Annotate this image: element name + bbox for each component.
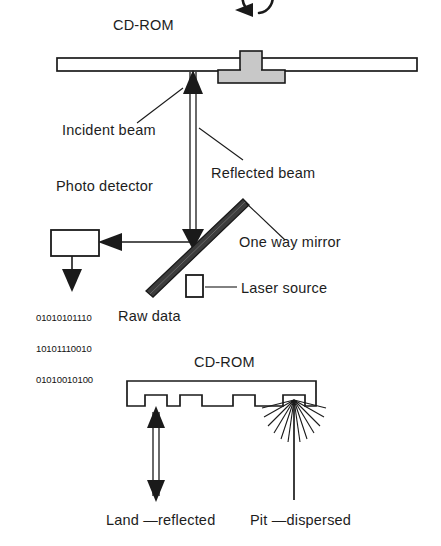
land-reflected-beam bbox=[147, 406, 165, 502]
cdrom-disc-bottom bbox=[127, 381, 316, 406]
pit-dispersed-label: Pit —dispersed bbox=[250, 512, 351, 528]
cdrom-title-top: CD-ROM bbox=[113, 17, 174, 33]
laser-source-label: Laser source bbox=[241, 280, 327, 296]
incident-beam-label: Incident beam bbox=[62, 122, 156, 138]
land-reflected-label: Land —reflected bbox=[106, 512, 215, 528]
laser-source-box bbox=[186, 275, 203, 297]
detector-beam-arrowhead bbox=[98, 233, 122, 251]
reflected-beam-label: Reflected beam bbox=[211, 165, 315, 181]
cdrom-diagram: CD-ROM Incident beam Reflected beam Phot… bbox=[0, 0, 441, 546]
diagram-graphics bbox=[0, 0, 441, 546]
raw-data-arrowhead bbox=[62, 269, 82, 292]
rotation-arrow-icon bbox=[235, 0, 273, 17]
raw-data-bits-line-3: 01010010100 bbox=[36, 375, 93, 385]
cdrom-disc-top bbox=[57, 58, 417, 71]
incident-beam-arrowhead bbox=[183, 70, 203, 94]
cdrom-title-bottom: CD-ROM bbox=[194, 354, 255, 370]
raw-data-bits: 01010101110 10101110010 01010010100 bbox=[36, 293, 93, 405]
raw-data-label: Raw data bbox=[118, 308, 181, 324]
raw-data-bits-line-1: 01010101110 bbox=[36, 313, 93, 323]
raw-data-bits-line-2: 10101110010 bbox=[36, 344, 93, 354]
incident-beam-leader bbox=[137, 88, 183, 123]
photo-detector-label: Photo detector bbox=[56, 178, 153, 194]
reflected-beam-leader bbox=[199, 128, 243, 160]
beam-vertical-lines bbox=[190, 72, 196, 238]
one-way-mirror-label: One way mirror bbox=[239, 234, 341, 250]
photo-detector-box bbox=[51, 230, 99, 256]
